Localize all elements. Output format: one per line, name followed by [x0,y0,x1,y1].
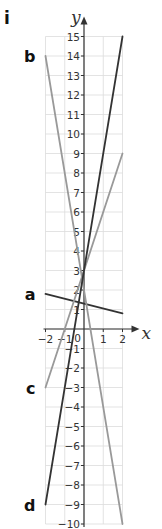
y-tick-label: 6 [73,206,80,218]
y-tick-label: −3 [65,382,80,394]
y-tick-label: 8 [73,167,80,179]
label-a: a [25,285,36,304]
y-tick-label: −10 [58,518,80,529]
label-b: b [24,47,35,66]
y-tick-label: −5 [65,421,80,433]
x-tick-label: 1 [100,333,107,345]
y-tick-label: −6 [65,440,81,452]
y-tick-label: 14 [67,50,81,62]
y-axis-arrow-icon [81,17,88,25]
part-label: i [4,8,10,28]
line-labels: abcd [24,47,35,515]
y-tick-label: 9 [73,148,80,160]
y-tick-label: 15 [67,31,80,43]
axes: xy [44,7,152,528]
x-tick-label: 2 [119,333,126,345]
y-tick-label: 11 [67,109,80,121]
label-c: c [26,379,35,398]
label-d: d [24,496,35,515]
y-tick-label: 12 [67,89,80,101]
y-tick-label: 13 [67,70,80,82]
x-tick-label: −2 [38,333,53,345]
y-tick-label: −8 [65,479,80,491]
x-axis-arrow-icon [132,326,140,333]
x-axis-label: x [142,323,152,343]
y-axis-label: y [70,7,81,27]
y-tick-label: −9 [65,499,80,511]
y-tick-label: −7 [65,460,80,472]
x-tick-label: 0 [74,332,81,344]
y-tick-label: 3 [73,265,80,277]
y-tick-label: 7 [73,187,80,199]
y-tick-label: −4 [65,401,81,413]
line-graph: xy −10−9−8−7−6−5−4−3−2−11234567891011121… [0,0,162,529]
y-tick-label: 10 [67,128,80,140]
